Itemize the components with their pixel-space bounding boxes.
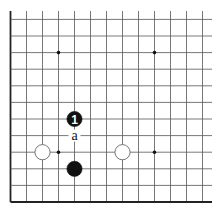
- point-label-marker: a: [71, 128, 78, 143]
- star-point: [153, 150, 157, 154]
- stones: 1: [35, 111, 130, 176]
- go-board: a 1: [0, 0, 221, 212]
- star-point: [153, 51, 157, 55]
- white-stone: [35, 145, 50, 160]
- stone-move-number: 1: [71, 113, 78, 127]
- star-point: [57, 51, 61, 55]
- star-point: [57, 150, 61, 154]
- white-stone: [115, 145, 130, 160]
- black-stone: [67, 161, 82, 176]
- point-markers: a: [69, 128, 81, 143]
- board-grid: [11, 11, 213, 202]
